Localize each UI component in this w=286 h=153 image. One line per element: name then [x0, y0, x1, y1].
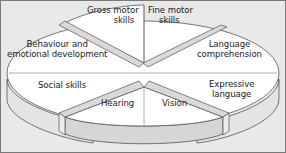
label-behaviour: Behaviour and emotional development — [7, 39, 107, 59]
label-social-skills: Social skills — [38, 80, 86, 90]
label-expressive-language: Expressive language — [209, 79, 254, 99]
diagram-frame: Gross motor skills Fine motor skills Lan… — [0, 0, 286, 153]
label-hearing: Hearing — [101, 98, 134, 108]
label-gross-motor: Gross motor skills — [87, 5, 139, 25]
label-language-comprehension: Language comprehension — [197, 39, 262, 59]
label-vision: Vision — [162, 98, 187, 108]
label-fine-motor: Fine motor skills — [148, 5, 193, 25]
pie-diagram — [1, 1, 286, 153]
